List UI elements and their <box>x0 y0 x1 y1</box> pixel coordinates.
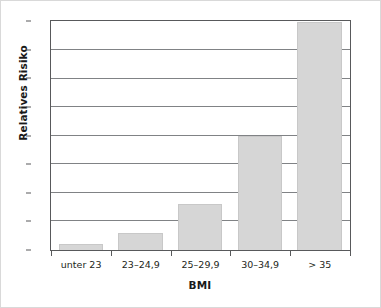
x-axis-tick-label: unter 23 <box>61 259 102 270</box>
bar[interactable] <box>238 136 282 250</box>
bar-slot <box>111 21 171 250</box>
y-axis-tick-mark <box>26 249 31 250</box>
x-axis-tick-label: 30–34,9 <box>241 259 279 270</box>
y-axis-title: Relatives Risiko <box>17 23 29 163</box>
plot-area <box>50 20 351 251</box>
x-axis-tick-mark <box>171 251 172 256</box>
bar-slot <box>170 21 230 250</box>
x-axis-tick-mark <box>230 251 231 256</box>
x-axis-tick-label: 23–24,9 <box>122 259 160 270</box>
bar[interactable] <box>297 22 341 250</box>
x-axis-tick-label: 25–29,9 <box>182 259 220 270</box>
bar-slot <box>290 21 350 250</box>
x-axis-tick-mark <box>111 251 112 256</box>
bar[interactable] <box>178 204 222 250</box>
bar[interactable] <box>118 233 162 250</box>
y-axis-tick-mark <box>26 164 31 165</box>
chart-figure: Relatives Risiko 0510152025303540unter 2… <box>0 0 381 308</box>
bar-slot <box>51 21 111 250</box>
y-axis-tick-mark <box>26 135 31 136</box>
x-axis-tick-mark <box>290 251 291 256</box>
x-axis-title: BMI <box>49 279 351 291</box>
bar[interactable] <box>59 244 103 250</box>
y-axis-tick-mark <box>26 221 31 222</box>
bar-slot <box>230 21 290 250</box>
y-axis-tick-mark <box>26 21 31 22</box>
y-axis-tick-mark <box>26 106 31 107</box>
y-axis-tick-mark <box>26 192 31 193</box>
y-axis-tick-mark <box>26 78 31 79</box>
x-axis-tick-mark <box>350 251 351 256</box>
x-axis-tick-mark <box>51 251 52 256</box>
x-axis-tick-label: > 35 <box>308 259 331 270</box>
bars <box>51 21 350 250</box>
y-axis-tick-mark <box>26 49 31 50</box>
